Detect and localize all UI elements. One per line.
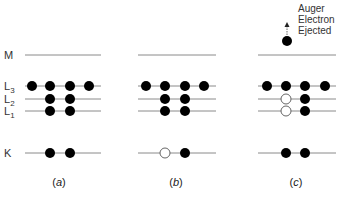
ejected-electron bbox=[282, 36, 292, 46]
arrow-up-icon bbox=[285, 22, 290, 27]
electron bbox=[45, 81, 55, 91]
electron bbox=[199, 81, 209, 91]
panel-caption-c: (c) bbox=[290, 176, 303, 188]
electron bbox=[141, 81, 151, 91]
panel-c: AugerElectronEjected(c) bbox=[258, 3, 336, 188]
level-label-k: K bbox=[4, 147, 12, 159]
electron bbox=[281, 81, 291, 91]
electron bbox=[300, 106, 310, 116]
electron bbox=[84, 81, 94, 91]
electron bbox=[27, 81, 37, 91]
electron bbox=[65, 148, 75, 158]
electron bbox=[45, 106, 55, 116]
auger-annotation-line: Auger bbox=[298, 3, 325, 14]
panel-b: (b) bbox=[138, 55, 216, 188]
electron bbox=[45, 94, 55, 104]
panel-a: (a) bbox=[25, 55, 101, 188]
electron bbox=[65, 106, 75, 116]
electron bbox=[180, 81, 190, 91]
auger-annotation-line: Ejected bbox=[298, 25, 331, 36]
electron bbox=[65, 94, 75, 104]
panels: (a)(b)AugerElectronEjected(c) bbox=[25, 3, 336, 188]
electron bbox=[300, 81, 310, 91]
vacancy-hole bbox=[281, 94, 291, 104]
electron bbox=[160, 94, 170, 104]
energy-level-labels: ML3L2L1K bbox=[4, 49, 15, 159]
auger-effect-diagram: ML3L2L1K (a)(b)AugerElectronEjected(c) bbox=[0, 0, 346, 200]
vacancy-hole bbox=[281, 106, 291, 116]
electron bbox=[65, 81, 75, 91]
panel-caption-a: (a) bbox=[52, 176, 65, 188]
electron bbox=[320, 81, 330, 91]
vacancy-hole bbox=[160, 148, 170, 158]
electron bbox=[281, 148, 291, 158]
electron bbox=[160, 81, 170, 91]
electron bbox=[300, 148, 310, 158]
electron bbox=[300, 94, 310, 104]
electron bbox=[160, 106, 170, 116]
electron bbox=[262, 81, 272, 91]
electron bbox=[180, 106, 190, 116]
electron bbox=[180, 94, 190, 104]
electron bbox=[45, 148, 55, 158]
electron bbox=[180, 148, 190, 158]
panel-caption-b: (b) bbox=[169, 176, 182, 188]
level-label-m: M bbox=[4, 49, 13, 61]
auger-annotation-line: Electron bbox=[298, 14, 335, 25]
